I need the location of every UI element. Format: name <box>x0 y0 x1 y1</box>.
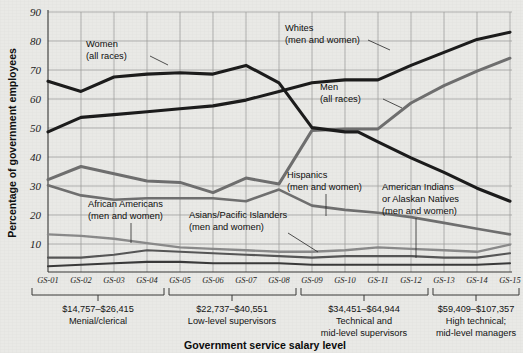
x-tick-gs-13: GS-13 <box>433 276 454 285</box>
group-3-range: $34,451–$64,944 <box>328 304 400 314</box>
x-tick-gs-09: GS-09 <box>301 276 323 285</box>
annotation-men-line1: Men <box>320 82 338 92</box>
x-tick-gs-14: GS-14 <box>466 276 487 285</box>
annotation-african-americans-line1: African Americans <box>88 199 163 209</box>
x-tick-gs-04: GS-04 <box>136 276 157 285</box>
x-axis-tick-labels: GS-01 GS-02 GS-03 GS-04 GS-05 GS-06 GS-0… <box>37 276 520 285</box>
group-4-description-line1: High technical; <box>446 316 506 326</box>
x-axis-title: Government service salary level <box>184 339 346 351</box>
annotation-african-americans-line2: (men and women) <box>88 211 163 221</box>
y-tick-80: 80 <box>30 35 42 47</box>
x-tick-gs-03: GS-03 <box>103 276 124 285</box>
group-3-description-line2: mid-level supervisors <box>321 328 408 338</box>
y-tick-20: 20 <box>30 209 42 221</box>
group-4-range: $59,409–$107,357 <box>438 304 515 314</box>
annotation-women-line1: Women <box>86 39 118 49</box>
y-tick-40: 40 <box>30 151 42 163</box>
x-tick-gs-01: GS-01 <box>37 276 58 285</box>
y-tick-30: 30 <box>29 180 42 192</box>
group-3-description-line1: Technical and <box>336 316 392 326</box>
x-tick-gs-15: GS-15 <box>499 276 520 285</box>
y-tick-60: 60 <box>30 93 42 105</box>
x-tick-gs-06: GS-06 <box>202 276 224 285</box>
x-tick-gs-07: GS-07 <box>235 276 257 285</box>
salary-group-4: $59,409–$107,357 High technical; mid-lev… <box>436 304 517 338</box>
x-tick-gs-12: GS-12 <box>400 276 421 285</box>
group-2-description: Low-level supervisors <box>188 316 277 326</box>
annotation-asians-line2: (men and women) <box>189 222 264 232</box>
annotation-asians-line1: Asians/Pacific Islanders <box>189 210 288 220</box>
annotation-women-line2: (all races) <box>86 51 127 61</box>
x-tick-gs-10: GS-10 <box>334 276 356 285</box>
y-tick-50: 50 <box>30 122 42 134</box>
annotation-men-line2: (all races) <box>320 94 361 104</box>
x-tick-gs-02: GS-02 <box>70 276 91 285</box>
group-1-range: $14,757–$26,415 <box>62 304 134 314</box>
x-tick-gs-08: GS-08 <box>268 276 290 285</box>
group-4-description-line2: mid-level managers <box>436 328 517 338</box>
annotation-american-indians-line2: or Alaskan Natives <box>382 194 459 204</box>
x-tick-gs-11: GS-11 <box>368 276 389 285</box>
annotation-american-indians-line3: (men and women) <box>382 206 457 216</box>
y-tick-10: 10 <box>30 238 42 250</box>
y-tick-90: 90 <box>30 6 42 18</box>
chart-figure: 90 80 70 60 50 40 30 20 10 Percentage of… <box>0 0 523 353</box>
annotation-hispanics-line1: Hispanics <box>287 170 328 180</box>
y-axis-title: Percentage of government employees <box>6 48 18 238</box>
group-2-range: $22,737–$40,551 <box>196 304 268 314</box>
x-tick-gs-05: GS-05 <box>169 276 190 285</box>
line-chart-svg: 90 80 70 60 50 40 30 20 10 Percentage of… <box>0 0 523 353</box>
y-axis-tick-labels: 90 80 70 60 50 40 30 20 10 <box>29 6 42 250</box>
annotation-hispanics-line2: (men and women) <box>287 182 362 192</box>
group-1-description: Menial/clerical <box>69 316 127 326</box>
y-tick-70: 70 <box>30 64 42 76</box>
annotation-american-indians-line1: American Indians <box>382 182 454 192</box>
annotation-whites-line2: (men and women) <box>285 35 360 45</box>
annotation-whites-line1: Whites <box>285 23 314 33</box>
